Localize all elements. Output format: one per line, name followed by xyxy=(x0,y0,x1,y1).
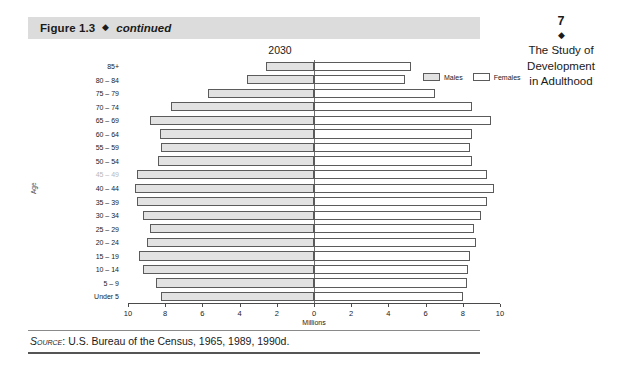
running-head-title-line2: Development xyxy=(505,60,617,74)
bar-female xyxy=(314,116,491,125)
bar-male xyxy=(143,211,314,220)
x-axis-tick-label: 2 xyxy=(349,309,353,318)
figure-header-bar: Figure 1.3 ◆ continued xyxy=(28,17,480,39)
age-group-label: 20 – 24 xyxy=(96,236,119,250)
bar-male xyxy=(137,170,314,179)
x-axis-tick-label: 0 xyxy=(312,309,316,318)
bar-female xyxy=(314,184,494,193)
x-axis-tick-label: 4 xyxy=(238,309,242,318)
source-line: Source: U.S. Bureau of the Census, 1965,… xyxy=(30,335,289,347)
bar-male xyxy=(147,238,314,247)
legend-label-males: Males xyxy=(444,74,463,81)
bar-male xyxy=(208,89,314,98)
age-group-label: 25 – 29 xyxy=(96,223,119,237)
bar-female xyxy=(314,156,472,165)
plot-area: 85+80 – 8475 – 7970 – 7465 – 6960 – 6455… xyxy=(128,60,500,304)
running-head-title-line1: The Study of xyxy=(505,44,617,58)
bar-female xyxy=(314,292,463,301)
x-axis-tick-label: 10 xyxy=(124,309,132,318)
age-group-label: 55 – 59 xyxy=(96,141,119,155)
x-axis-tick xyxy=(277,304,278,307)
bar-row: 40 – 44 xyxy=(128,182,500,196)
bar-row: 70 – 74 xyxy=(128,101,500,115)
bar-male xyxy=(143,265,314,274)
bar-row: 10 – 14 xyxy=(128,263,500,277)
bar-row: 65 – 69 xyxy=(128,114,500,128)
bar-female xyxy=(314,224,474,233)
x-axis-tick xyxy=(128,304,129,307)
source-rule-bottom xyxy=(28,352,480,354)
x-axis-tick xyxy=(202,304,203,307)
age-group-label: 15 – 19 xyxy=(96,250,119,264)
y-axis-title: Age xyxy=(30,182,37,194)
source-rule-top xyxy=(28,330,480,331)
bar-male xyxy=(156,278,314,287)
bar-male xyxy=(171,102,314,111)
bar-male xyxy=(161,143,314,152)
source-text: : U.S. Bureau of the Census, 1965, 1989,… xyxy=(62,335,289,347)
age-group-label: 30 – 34 xyxy=(96,209,119,223)
diamond-icon: ◆ xyxy=(505,29,617,42)
bar-row: 45 – 49 xyxy=(128,168,500,182)
age-group-label: 10 – 14 xyxy=(96,263,119,277)
x-axis-tick-label: 6 xyxy=(200,309,204,318)
bar-row: Under 5 xyxy=(128,290,500,304)
bar-female xyxy=(314,197,487,206)
bar-male xyxy=(266,62,314,71)
source-prefix: Source xyxy=(30,335,62,347)
bar-row: 50 – 54 xyxy=(128,155,500,169)
bar-female xyxy=(314,278,467,287)
x-axis-tick xyxy=(351,304,352,307)
bar-female xyxy=(314,211,481,220)
bar-female xyxy=(314,265,468,274)
bar-female xyxy=(314,170,487,179)
bar-male xyxy=(161,292,314,301)
age-group-label: Under 5 xyxy=(94,290,119,304)
age-group-label: 40 – 44 xyxy=(96,182,119,196)
bar-male xyxy=(150,224,314,233)
bar-female xyxy=(314,102,472,111)
bar-row: 35 – 39 xyxy=(128,196,500,210)
x-axis-tick xyxy=(165,304,166,307)
bar-row: 85+ xyxy=(128,60,500,74)
bar-female xyxy=(314,251,470,260)
chart-title: 2030 xyxy=(28,44,508,56)
x-axis-tick xyxy=(500,304,501,307)
bar-row: 25 – 29 xyxy=(128,223,500,237)
bar-female xyxy=(314,89,435,98)
legend-label-females: Females xyxy=(494,74,521,81)
bar-row: 75 – 79 xyxy=(128,87,500,101)
bar-row: 20 – 24 xyxy=(128,236,500,250)
age-group-label: 85+ xyxy=(107,60,119,74)
age-group-label: 35 – 39 xyxy=(96,196,119,210)
bar-row: 55 – 59 xyxy=(128,141,500,155)
population-pyramid-chart: 2030 Age 85+80 – 8475 – 7970 – 7465 – 69… xyxy=(28,44,508,329)
x-axis-tick-label: 4 xyxy=(386,309,390,318)
x-axis-tick xyxy=(240,304,241,307)
bar-row: 15 – 19 xyxy=(128,250,500,264)
x-axis-tick-label: 8 xyxy=(461,309,465,318)
bar-male xyxy=(160,129,314,138)
bar-male xyxy=(135,184,314,193)
x-axis-tick xyxy=(388,304,389,307)
x-axis-tick-label: 8 xyxy=(163,309,167,318)
bar-male xyxy=(139,251,314,260)
bar-row: 60 – 64 xyxy=(128,128,500,142)
legend-swatch-females xyxy=(473,73,490,81)
bar-male xyxy=(150,116,314,125)
bar-female xyxy=(314,75,405,84)
figure-continued-label: continued xyxy=(116,22,171,34)
age-group-label: 80 – 84 xyxy=(96,74,119,88)
bar-female xyxy=(314,62,411,71)
x-axis-tick-label: 10 xyxy=(496,309,504,318)
page-number: 7 xyxy=(505,14,617,29)
bar-male xyxy=(247,75,314,84)
x-axis-tick-label: 2 xyxy=(275,309,279,318)
bar-male xyxy=(158,156,314,165)
bar-row: 5 – 9 xyxy=(128,277,500,291)
x-axis-tick xyxy=(426,304,427,307)
age-group-label: 45 – 49 xyxy=(96,168,119,182)
x-axis-tick xyxy=(314,304,315,307)
diamond-icon: ◆ xyxy=(102,22,109,32)
x-axis-title: Millions xyxy=(128,319,500,326)
